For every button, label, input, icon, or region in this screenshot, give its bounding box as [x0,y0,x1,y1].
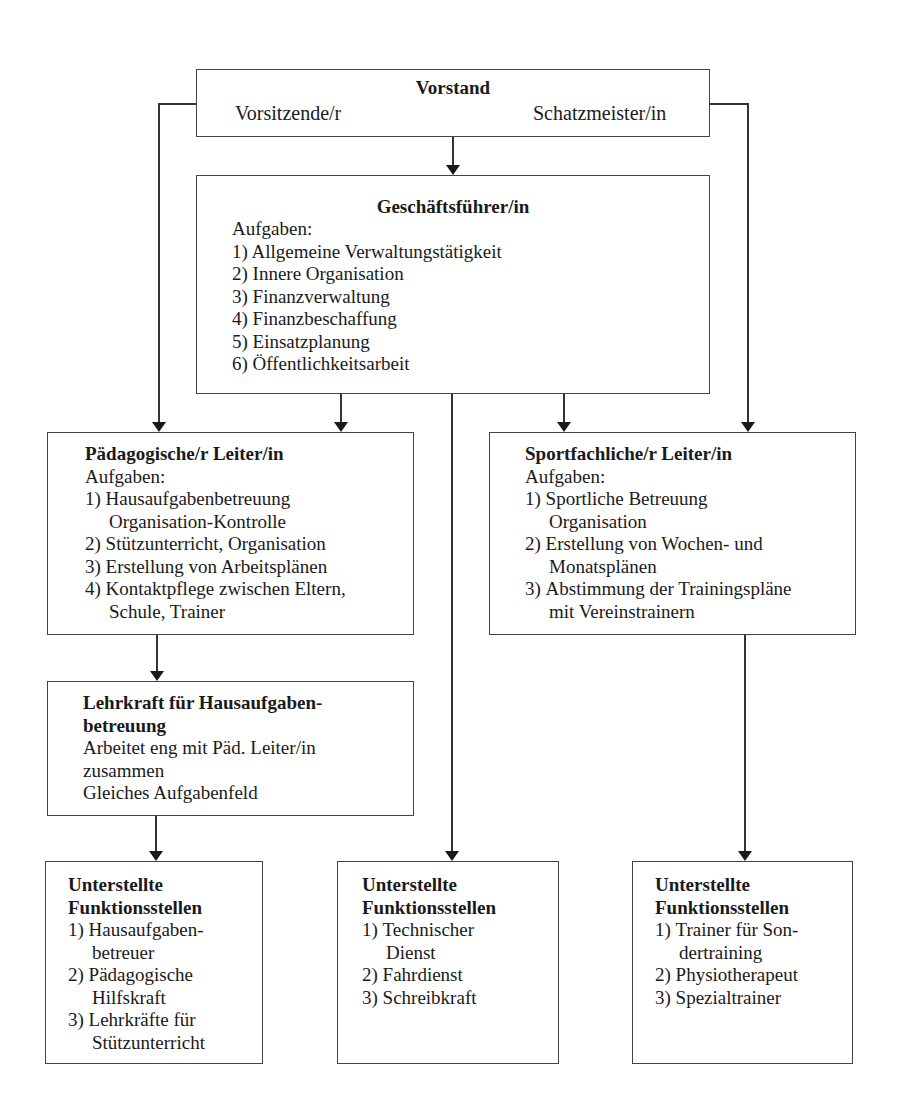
sport-task: 2) Erstellung von Wochen- und [525,533,792,556]
item-number: 1) [68,919,84,942]
arrow-down-icon [557,422,571,432]
funktion-left-box: Unterstellte Funktionsstellen 1) Hausauf… [45,861,263,1064]
task-text: Hausaufgabenbetreuung [106,488,291,511]
vorstand-treasurer: Schatzmeister/in [533,102,666,125]
vorstand-box: Vorstand Vorsitzende/r Schatzmeister/in [196,69,710,137]
funktion-right-title-cont: Funktionsstellen [655,897,798,920]
funktion-mid-title-cont: Funktionsstellen [362,897,496,920]
item-text: Pädagogische [89,964,193,987]
item-text: Fahrdienst [383,964,463,987]
funktion-item: 2) Physiotherapeut [655,964,798,987]
paed-subtitle: Aufgaben: [85,466,346,489]
task-text: Stützunterricht, Organisation [106,533,326,556]
task-number: 3) [525,578,541,601]
connector-lehrkraft-funktion-left [155,816,157,852]
item-number: 3) [655,987,671,1010]
paed-task: 4) Kontaktpflege zwischen Eltern, [85,578,346,601]
arrow-down-icon [334,422,348,432]
paed-title: Pädagogische/r Leiter/in [85,443,346,466]
lehrkraft-title: Lehrkraft für Hausaufgaben- [83,692,322,715]
sport-subtitle: Aufgaben: [525,466,792,489]
funktion-left-content: Unterstellte Funktionsstellen 1) Hausauf… [68,874,205,1054]
connector-gf-paed [340,393,342,423]
funktion-item-cont: betreuer [68,942,205,965]
item-number: 2) [68,964,84,987]
funktion-item: 2) Fahrdienst [362,964,496,987]
connector-vorstand-left-h [158,103,196,105]
vorstand-chair: Vorsitzende/r [235,102,341,125]
connector-vorstand-right-h [710,103,748,105]
arrow-down-icon [738,851,752,861]
item-number: 1) [362,919,378,942]
funktion-item-cont: Hilfskraft [68,987,205,1010]
task-number: 2) [85,533,101,556]
funktion-mid-title: Unterstellte [362,874,496,897]
item-text: Schreibkraft [383,987,477,1010]
connector-gf-funktion-mid [451,393,453,852]
funktion-item: 3) Spezialtrainer [655,987,798,1010]
task-text: Kontaktpflege zwischen Eltern, [106,578,346,601]
geschaeftsfuehrer-box: Geschäftsführer/in Aufgaben: 1) Allgemei… [196,175,710,394]
item-text: Technischer [383,919,475,942]
paed-task-cont: Schule, Trainer [85,601,346,624]
gf-task: 2) Innere Organisation [232,263,502,286]
paed-leiter-box: Pädagogische/r Leiter/in Aufgaben: 1) Ha… [47,432,414,635]
task-text: Sportliche Betreuung [546,488,708,511]
connector-sport-funktion-right [744,634,746,852]
sport-task-cont: Monatsplänen [525,556,792,579]
sport-task-cont: Organisation [525,511,792,534]
lehrkraft-desc: zusammen [83,760,322,783]
sport-task-cont: mit Vereinstrainern [525,601,792,624]
connector-vorstand-right-v [747,103,749,423]
funktion-right-box: Unterstellte Funktionsstellen 1) Trainer… [632,861,853,1064]
item-number: 2) [655,964,671,987]
item-text: Trainer für Son- [676,919,799,942]
connector-paed-lehrkraft [156,634,158,672]
paed-task-cont: Organisation-Kontrolle [85,511,346,534]
lehrkraft-content: Lehrkraft für Hausaufgaben- betreuung Ar… [83,692,322,805]
connector-gf-sport [563,393,565,423]
gf-title: Geschäftsführer/in [197,196,709,219]
funktion-item: 1) Trainer für Son- [655,919,798,942]
funktion-right-title: Unterstellte [655,874,798,897]
sport-leiter-box: Sportfachliche/r Leiter/in Aufgaben: 1) … [489,432,856,635]
gf-task: 3) Finanzverwaltung [232,286,502,309]
funktion-left-title: Unterstellte [68,874,205,897]
lehrkraft-box: Lehrkraft für Hausaufgaben- betreuung Ar… [47,681,414,816]
sport-content: Sportfachliche/r Leiter/in Aufgaben: 1) … [525,443,792,623]
arrow-down-icon [741,422,755,432]
funktion-mid-content: Unterstellte Funktionsstellen 1) Technis… [362,874,496,1009]
gf-subtitle: Aufgaben: [232,218,502,241]
task-number: 1) [85,488,101,511]
funktion-left-title-cont: Funktionsstellen [68,897,205,920]
gf-task: 5) Einsatzplanung [232,331,502,354]
task-number: 4) [85,578,101,601]
arrow-down-icon [152,422,166,432]
lehrkraft-desc: Gleiches Aufgabenfeld [83,782,322,805]
item-number: 3) [68,1009,84,1032]
funktion-item: 3) Schreibkraft [362,987,496,1010]
paed-task: 2) Stützunterricht, Organisation [85,533,346,556]
arrow-down-icon [149,851,163,861]
item-number: 2) [362,964,378,987]
connector-vorstand-gf [452,137,454,165]
funktion-item-cont: dertraining [655,942,798,965]
lehrkraft-title-cont: betreuung [83,715,322,738]
gf-task: 1) Allgemeine Verwaltungstätigkeit [232,241,502,264]
gf-task: 6) Öffentlichkeitsarbeit [232,353,502,376]
funktion-right-content: Unterstellte Funktionsstellen 1) Trainer… [655,874,798,1009]
paed-content: Pädagogische/r Leiter/in Aufgaben: 1) Ha… [85,443,346,623]
arrow-down-icon [150,671,164,681]
arrow-down-icon [446,165,460,175]
gf-task: 4) Finanzbeschaffung [232,308,502,331]
funktion-item-cont: Stützunterricht [68,1032,205,1055]
sport-task: 3) Abstimmung der Trainingspläne [525,578,792,601]
task-number: 3) [85,556,101,579]
sport-title: Sportfachliche/r Leiter/in [525,443,792,466]
funktion-item: 1) Hausaufgaben- [68,919,205,942]
task-number: 2) [525,533,541,556]
connector-vorstand-left-v [158,103,160,423]
item-text: Hausaufgaben- [89,919,204,942]
lehrkraft-desc: Arbeitet eng mit Päd. Leiter/in [83,737,322,760]
item-text: Physiotherapeut [676,964,798,987]
